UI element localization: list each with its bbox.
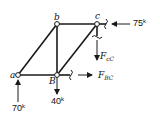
node-a xyxy=(16,73,21,78)
node-b xyxy=(55,22,60,27)
label-node-c: c xyxy=(95,12,100,21)
force-FBC-label: FBC xyxy=(98,71,113,80)
label-node-b: b xyxy=(54,13,60,22)
load-40k-label: 40k xyxy=(51,97,64,106)
member-ab xyxy=(18,24,57,75)
label-node-a: a xyxy=(10,71,15,80)
force-FcC-label: FcC xyxy=(100,52,114,61)
member-Bc xyxy=(57,24,97,75)
label-node-B: B xyxy=(49,77,56,86)
node-c xyxy=(95,22,100,27)
load-70k-label: 70k xyxy=(12,104,25,113)
load-75k-label: 75k xyxy=(133,19,146,28)
